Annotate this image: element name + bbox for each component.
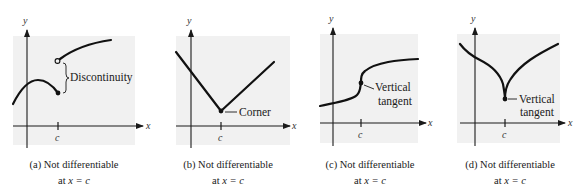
y-axis-label: y [328, 13, 334, 24]
corner-point [219, 109, 224, 114]
panel-a: y x c Discontinuity (a) Not differentiab… [13, 15, 151, 186]
caption-a-line1: (a) Not differentiable [29, 159, 118, 171]
caption-d-line2: at x = c [494, 175, 526, 186]
x-axis-label: x [291, 120, 297, 131]
annotation-corner: Corner [239, 106, 271, 118]
panel-b-background [176, 36, 290, 145]
x-axis-label: x [427, 117, 433, 128]
tick-c-label: c [502, 129, 507, 140]
panel-b: y x c Corner (b) Not differentiable at x… [176, 15, 297, 186]
annotation-discontinuity: Discontinuity [70, 71, 133, 84]
cusp-point [503, 97, 508, 102]
caption-a-line2: at x = c [58, 175, 90, 186]
caption-b-line2: at x = c [212, 175, 244, 186]
tick-c-label: c [55, 132, 60, 143]
annotation-vertical: Vertical [519, 93, 555, 105]
tick-c-label: c [218, 132, 223, 143]
caption-c-line2: at x = c [354, 175, 386, 186]
caption-b-line1: (b) Not differentiable [183, 159, 273, 171]
y-axis-label: y [470, 13, 476, 24]
tick-c-label: c [358, 129, 363, 140]
figure-non-differentiable-cases: y x c Discontinuity (a) Not differentiab… [0, 0, 582, 193]
vertical-tangent-point [359, 81, 364, 86]
annotation-vertical: Vertical [375, 81, 411, 93]
y-axis-label: y [22, 15, 28, 26]
annotation-tangent: tangent [520, 106, 555, 119]
panel-d: y x c Vertical tangent (d) Not different… [457, 13, 573, 186]
open-point [55, 59, 60, 64]
x-axis-label: x [145, 120, 151, 131]
panel-c: y x c Vertical tangent (c) Not different… [320, 13, 433, 186]
y-axis-label: y [186, 15, 192, 26]
x-axis-label: x [567, 117, 573, 128]
caption-c-line1: (c) Not differentiable [325, 159, 414, 171]
caption-d-line1: (d) Not differentiable [465, 159, 555, 171]
closed-point [56, 91, 61, 96]
annotation-tangent: tangent [378, 95, 413, 108]
panel-a-background [13, 36, 135, 145]
